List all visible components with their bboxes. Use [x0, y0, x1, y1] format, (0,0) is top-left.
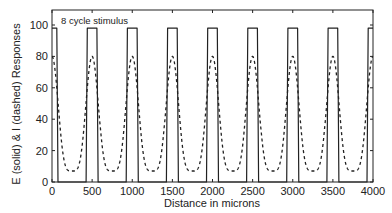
y-tick-label: 40 [36, 113, 48, 125]
y-tick-label: 20 [36, 145, 48, 157]
x-tick-label: 2500 [240, 185, 264, 197]
x-tick-label: 0 [49, 185, 55, 197]
y-tick-label: 0 [42, 176, 48, 188]
chart: 020406080100 050010001500200025003000350… [0, 0, 392, 213]
plot-area [52, 28, 373, 182]
y-tick-label: 80 [36, 50, 48, 62]
series-e-solid-line [52, 28, 373, 182]
x-tick-label: 4000 [361, 185, 385, 197]
y-tick-label: 60 [36, 82, 48, 94]
x-tick-label: 500 [83, 185, 101, 197]
x-tick-label: 1500 [160, 185, 184, 197]
annotation-text: 8 cycle stimulus [61, 15, 128, 26]
series-i-dashed-line [52, 56, 373, 171]
y-axis-ticks: 020406080100 [30, 19, 373, 188]
y-tick-label: 100 [30, 19, 48, 31]
plot-frame [52, 10, 373, 182]
y-axis-label: E (solid) & I (dashed) Responses [10, 23, 22, 185]
x-tick-label: 3000 [281, 185, 305, 197]
x-tick-label: 3500 [321, 185, 345, 197]
x-axis-label: Distance in microns [164, 197, 260, 209]
x-tick-label: 1000 [120, 185, 144, 197]
x-tick-label: 2000 [200, 185, 224, 197]
